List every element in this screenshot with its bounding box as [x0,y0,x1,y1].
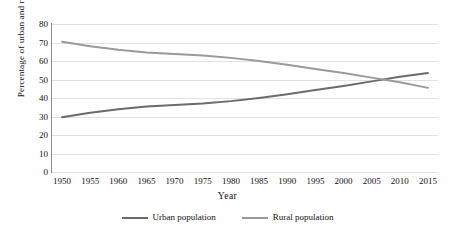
x-axis-title: Year [0,190,455,201]
line-chart: Percentage of urban and rural population… [0,0,455,240]
y-axis-tick-label: 70 [4,38,48,48]
legend-item[interactable]: Rural population [242,212,334,223]
y-axis-tick-label: 50 [4,75,48,85]
y-axis-tick-label: 80 [4,19,48,29]
y-axis-tick-labels: 01020304050607080 [0,0,48,200]
y-axis-tick-label: 30 [4,112,48,122]
x-axis-tick-labels: 1950195519601965197019751980198519901995… [52,175,438,189]
chart-legend: Urban populationRural population [0,212,455,223]
y-axis-tick-label: 40 [4,93,48,103]
legend-label: Urban population [153,212,216,223]
y-axis-tick-label: 60 [4,56,48,66]
legend-label: Rural population [273,212,334,223]
legend-line-swatch-icon [122,217,148,219]
y-axis-tick-label: 10 [4,149,48,159]
series-line [62,73,428,117]
gridline [52,172,438,173]
legend-line-swatch-icon [242,217,268,219]
plot-area [52,24,438,172]
legend-item[interactable]: Urban population [122,212,216,223]
y-axis-tick-label: 20 [4,130,48,140]
x-axis-tick-label: 2015 [408,175,448,187]
series-lines [52,24,438,172]
